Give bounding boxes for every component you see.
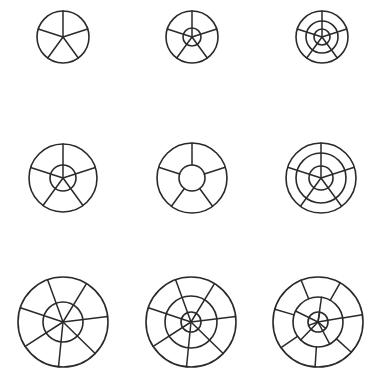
spoke-line [192,29,217,37]
wheel-figure-r1c3 [296,11,348,63]
spoke-line [336,339,351,352]
spoke-line [321,167,354,178]
spoke-line [288,167,321,178]
spoke-line [191,322,223,353]
spoke-line [275,309,294,315]
concentric-spoke-circles-diagram [0,0,381,383]
spoke-line [20,308,63,322]
spoke-line [315,347,316,367]
wheel-figure-r3c3 [273,277,363,367]
wheel-figure-r3c2 [146,277,236,367]
spoke-line [63,37,78,58]
spoke-line [167,29,192,37]
wheel-figure-r2c3 [286,143,356,213]
spoke-line [38,29,63,37]
spoke-line [187,322,191,367]
spoke-line [191,284,214,322]
spoke-line [63,29,88,37]
spoke-line [153,322,191,346]
spoke-line [63,316,108,322]
spoke-line [171,189,184,207]
spoke-line [301,280,308,299]
wheel-figure-r3c1 [18,277,108,367]
spoke-line [43,178,63,206]
spoke-line [204,167,225,174]
spoke-line [63,167,95,178]
inner-ring [179,165,205,191]
diagram-canvas [0,0,381,383]
spoke-line [318,318,343,322]
spoke-line [63,178,83,206]
spoke-line [191,316,236,322]
spoke-line [63,322,95,353]
spoke-line [318,297,321,322]
spoke-line [48,37,63,58]
wheel-figure-r1c2 [166,11,218,63]
spoke-line [281,336,297,347]
wheel-figure-r2c2 [157,143,227,213]
spoke-line [48,280,63,322]
spoke-line [159,167,180,174]
spoke-line [59,322,63,367]
wheel-figure-r2c1 [29,144,97,212]
spoke-line [343,315,363,318]
spoke-line [330,283,340,300]
spoke-line [31,167,63,178]
spoke-line [200,189,213,207]
wheel-figure-r1c1 [37,11,89,63]
